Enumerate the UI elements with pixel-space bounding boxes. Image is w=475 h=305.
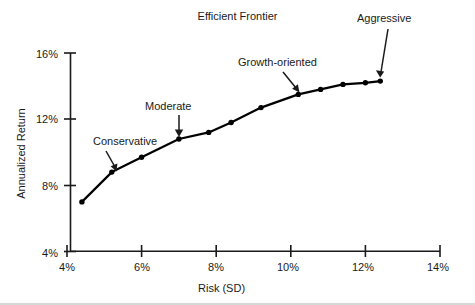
data-point — [176, 136, 181, 141]
frontier-series — [79, 78, 383, 204]
data-point — [340, 82, 345, 87]
axes-group — [64, 53, 440, 257]
data-point — [296, 92, 301, 97]
annotation-arrow-conservative — [106, 151, 117, 172]
plot-area — [0, 0, 475, 305]
data-point — [139, 155, 144, 160]
annotation-arrow-growth-oriented — [283, 72, 300, 93]
data-point — [258, 105, 263, 110]
data-point — [378, 78, 383, 83]
annotation-arrows — [106, 29, 388, 172]
efficient-frontier-chart: Efficient Frontier Annualized Return Ris… — [0, 0, 475, 305]
frontier-line — [82, 81, 380, 202]
annotation-arrow-aggressive — [376, 29, 388, 78]
frontier-data-points — [79, 78, 383, 204]
data-point — [206, 130, 211, 135]
data-point — [228, 120, 233, 125]
data-point — [363, 80, 368, 85]
data-point — [318, 87, 323, 92]
annotation-arrow-moderate — [175, 115, 183, 137]
data-point — [79, 199, 84, 204]
data-point — [109, 169, 114, 174]
